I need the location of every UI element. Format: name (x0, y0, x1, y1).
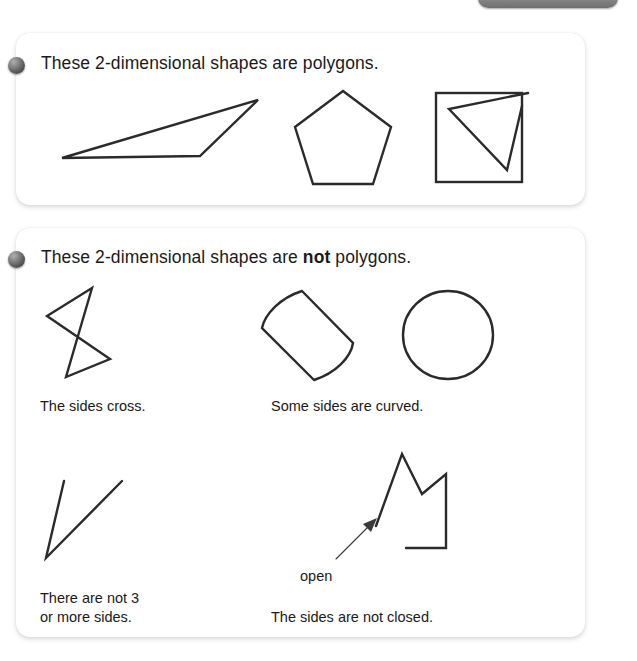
pentagon-shape (292, 88, 394, 188)
bullet-sphere-not-polygons (8, 251, 25, 268)
two-sides-shape (40, 478, 124, 562)
heading-polygons-text: These 2-dimensional shapes are polygons. (41, 53, 379, 73)
caption-open-shape: The sides are not closed. (271, 608, 433, 627)
triangle-shape (60, 93, 260, 163)
heading-not-polygons-suffix: polygons. (330, 247, 411, 267)
arrow-icon (333, 518, 381, 562)
heading-not-polygons-prefix: These 2-dimensional shapes are (41, 247, 303, 267)
square-with-triangle-shape (434, 91, 530, 185)
caption-crossing-sides: The sides cross. (40, 397, 146, 416)
crossing-sides-shape (42, 285, 114, 380)
caption-curved-sides: Some sides are curved. (271, 397, 423, 416)
bullet-sphere-polygons (8, 57, 25, 74)
heading-not-polygons: These 2-dimensional shapes are not polyg… (41, 247, 411, 268)
heading-not-polygons-emphasis: not (303, 247, 331, 267)
caption-two-sides: There are not 3 or more sides. (40, 589, 139, 627)
open-shape (370, 450, 448, 556)
heading-polygons: These 2-dimensional shapes are polygons. (41, 53, 379, 74)
top-tab-handle[interactable] (478, 0, 618, 8)
annotation-label-open: open (300, 568, 332, 584)
curved-sides-shape (258, 288, 356, 383)
circle-shape (400, 288, 496, 382)
